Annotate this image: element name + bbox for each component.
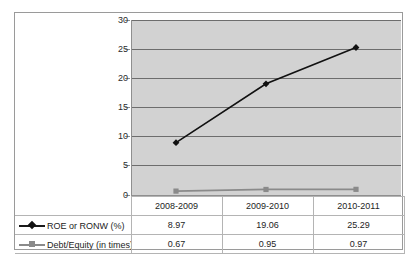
table-corner-blank — [15, 197, 131, 216]
table-row: ROE or RONW (%) 8.97 19.06 25.29 — [15, 216, 404, 235]
cell-de-2008-2009: 0.67 — [131, 235, 222, 254]
table-header-2008-2009: 2008-2009 — [131, 197, 222, 216]
ytick-label-25: 25 — [88, 45, 128, 54]
series-plot — [131, 20, 401, 195]
table-header-row: 2008-2009 2009-2010 2010-2011 — [15, 197, 404, 216]
chart-figure: 30 25 20 15 10 5 0 2008-2009 2009-2010 2… — [14, 12, 403, 250]
cell-roe-2008-2009: 8.97 — [131, 216, 222, 235]
table-header-2009-2010: 2009-2010 — [222, 197, 313, 216]
ytick-label-10: 10 — [88, 132, 128, 141]
cell-roe-2009-2010: 19.06 — [222, 216, 313, 235]
roe-line — [176, 47, 356, 142]
debt-equity-data-point — [263, 187, 268, 192]
legend-label-debt-equity: Debt/Equity (in times) — [47, 239, 131, 249]
data-table: 2008-2009 2009-2010 2010-2011 ROE or RON… — [15, 196, 405, 254]
ytick-label-15: 15 — [88, 103, 128, 112]
legend-item-roe: ROE or RONW (%) — [15, 216, 131, 235]
ytick-label-5: 5 — [88, 161, 128, 170]
ytick-label-30: 30 — [88, 16, 128, 25]
roe-marker-group — [173, 44, 360, 146]
cell-de-2009-2010: 0.95 — [222, 235, 313, 254]
roe-data-point — [353, 44, 360, 51]
cell-de-2010-2011: 0.97 — [313, 235, 404, 254]
debt-equity-data-point — [353, 187, 358, 192]
table-row: Debt/Equity (in times) 0.67 0.95 0.97 — [15, 235, 404, 254]
roe-diamond-icon — [19, 221, 45, 230]
plot-region: 30 25 20 15 10 5 0 — [15, 13, 404, 196]
debt-equity-square-icon — [19, 240, 45, 249]
legend-label-roe: ROE or RONW (%) — [47, 220, 125, 230]
debt-equity-data-point — [173, 188, 178, 193]
cell-roe-2010-2011: 25.29 — [313, 216, 404, 235]
ytick-label-20: 20 — [88, 74, 128, 83]
table-header-2010-2011: 2010-2011 — [313, 197, 404, 216]
legend-item-debt-equity: Debt/Equity (in times) — [15, 235, 131, 254]
